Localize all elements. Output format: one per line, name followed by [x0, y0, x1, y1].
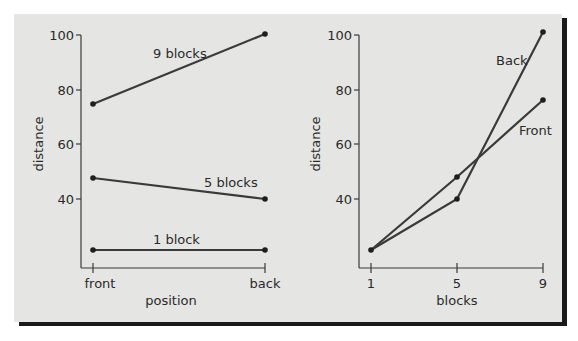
label-back: Back: [496, 53, 528, 68]
left-ytick-40: 40: [57, 192, 74, 207]
label-5-blocks: 5 blocks: [204, 175, 258, 190]
label-front: Front: [519, 123, 552, 138]
left-y-axis-title: distance: [31, 116, 46, 171]
left-ytick-80: 80: [57, 83, 74, 98]
right-xtick-1: 1: [367, 276, 375, 291]
right-xtick-9: 9: [539, 276, 547, 291]
left-ytick-100: 100: [49, 28, 74, 43]
left-x-axis-title: position: [145, 293, 197, 308]
charts-svg: 100 80 60 40 front back position distanc…: [0, 0, 578, 341]
right-ytick-60: 60: [335, 137, 352, 152]
right-xtick-5: 5: [453, 276, 461, 291]
left-xtick-back: back: [250, 276, 281, 291]
right-ytick-100: 100: [327, 28, 352, 43]
label-9-blocks: 9 blocks: [153, 46, 207, 61]
series-9-blocks-line: [93, 34, 265, 104]
right-chart: [354, 32, 543, 273]
label-1-block: 1 block: [153, 232, 200, 247]
right-ytick-40: 40: [335, 192, 352, 207]
left-points: [90, 31, 268, 253]
right-y-axis-title: distance: [308, 116, 323, 171]
left-ytick-60: 60: [57, 137, 74, 152]
left-xtick-front: front: [85, 276, 116, 291]
right-ytick-80: 80: [335, 83, 352, 98]
right-x-axis-title: blocks: [436, 293, 477, 308]
